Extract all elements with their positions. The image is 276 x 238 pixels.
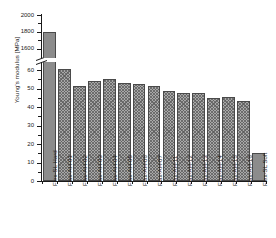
bar-upper-segment bbox=[43, 32, 56, 58]
bar-flax-ah-14[interactable] bbox=[207, 0, 220, 181]
y-minor-tick bbox=[38, 116, 41, 117]
bar-flax-ah-05[interactable] bbox=[118, 0, 131, 181]
x-tick-label: Flax-AH-06 bbox=[142, 155, 148, 186]
y-tick-label: 10 bbox=[8, 159, 34, 165]
bar-flax-ah-16[interactable] bbox=[237, 0, 250, 181]
y-tick-mark bbox=[37, 163, 41, 164]
y-tick-mark bbox=[37, 49, 41, 50]
x-tick-label: Flax-AH-12 bbox=[187, 155, 193, 186]
bar-flax-ah-03[interactable] bbox=[88, 0, 101, 181]
y-tick-label: 1800 bbox=[8, 28, 34, 34]
bar-flax-ah-15[interactable] bbox=[222, 0, 235, 181]
y-tick-mark bbox=[37, 126, 41, 127]
y-tick-label: 20 bbox=[8, 141, 34, 147]
y-tick-label: 40 bbox=[8, 104, 34, 110]
y-tick-mark bbox=[37, 89, 41, 90]
x-tick-label: Flex-SL Soft bbox=[262, 153, 268, 186]
y-tick-label: 0 bbox=[8, 178, 34, 184]
x-tick-label: Flax-AH-16 bbox=[247, 155, 253, 186]
y-minor-tick bbox=[38, 153, 41, 154]
y-tick-label: 1600 bbox=[8, 45, 34, 51]
y-tick-mark bbox=[37, 144, 41, 145]
x-tick-label: Flax-AH-14 bbox=[217, 155, 223, 186]
x-tick-label: Flax-AH-05 bbox=[127, 155, 133, 186]
y-tick-label: 50 bbox=[8, 85, 34, 91]
y-minor-tick bbox=[38, 79, 41, 80]
x-tick-label: Flax-AH-01 bbox=[67, 155, 73, 186]
bar-flax-ah-11[interactable] bbox=[163, 0, 176, 181]
bar-flax-ah-04[interactable] bbox=[103, 0, 116, 181]
y-tick-mark bbox=[37, 181, 41, 182]
y-minor-tick bbox=[38, 98, 41, 99]
bar-chart: Young's modulus [MPa] 010203040506016001… bbox=[0, 0, 276, 238]
bar-flax-ah-13[interactable] bbox=[192, 0, 205, 181]
y-tick-label: 60 bbox=[8, 67, 34, 73]
y-tick-mark bbox=[37, 70, 41, 71]
x-tick-label: Flax-AH-03 bbox=[97, 155, 103, 186]
x-tick-label: Flax-AH-15 bbox=[232, 155, 238, 186]
x-tick-mark bbox=[42, 181, 43, 184]
bar-flax-ah-12[interactable] bbox=[177, 0, 190, 181]
x-tick-label: Flax-AH-04 bbox=[112, 155, 118, 186]
bars-layer bbox=[42, 0, 267, 181]
x-tick-label: Flax-AH-13 bbox=[202, 155, 208, 186]
y-minor-tick bbox=[38, 23, 41, 24]
x-tick-label: Flex-SL Hard bbox=[52, 150, 58, 186]
x-tick-label: Flax-AH-02 bbox=[82, 155, 88, 186]
y-tick-label: 2000 bbox=[8, 12, 34, 18]
y-tick-mark bbox=[37, 107, 41, 108]
y-minor-tick bbox=[38, 172, 41, 173]
bar-flax-ah-06[interactable] bbox=[133, 0, 146, 181]
y-tick-mark bbox=[37, 32, 41, 33]
bar-flax-ah-01[interactable] bbox=[58, 0, 71, 181]
y-minor-tick bbox=[38, 40, 41, 41]
y-minor-tick bbox=[38, 135, 41, 136]
bar-flax-ah-02[interactable] bbox=[73, 0, 86, 181]
bar-flax-ah-07[interactable] bbox=[148, 0, 161, 181]
y-tick-label: 30 bbox=[8, 122, 34, 128]
y-tick-mark bbox=[37, 15, 41, 16]
x-tick-label: Flax-AH-11 bbox=[172, 156, 178, 186]
x-tick-label: Flax-AH-07 bbox=[157, 155, 163, 186]
